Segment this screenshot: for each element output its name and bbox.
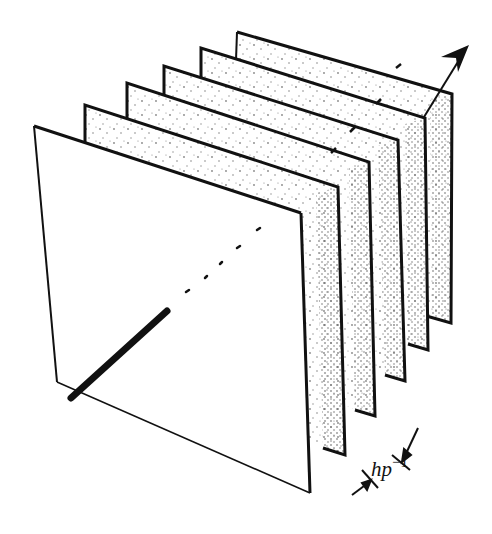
wavefront-planes-diagram: [0, 0, 492, 534]
spacing-label-text: hp: [371, 457, 392, 481]
spacing-label-superscript: −1: [392, 454, 408, 470]
spacing-label: hp−1: [371, 455, 408, 480]
